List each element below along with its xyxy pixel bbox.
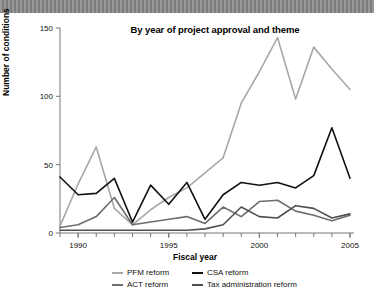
y-axis-tick-label: 150	[40, 24, 54, 33]
chart-legend: PFM reform CSA reform ACT reform Tax adm…	[112, 268, 362, 289]
legend-item-csa-reform[interactable]: CSA reform	[192, 268, 362, 277]
x-axis-tick-label: 2005	[341, 241, 359, 250]
legend-item-tax-administration-reform[interactable]: Tax administration reform	[192, 280, 362, 289]
legend-label-csa-reform: CSA reform	[207, 268, 248, 277]
y-axis-tick-label: 50	[44, 161, 53, 170]
x-axis-tick-label: 1990	[69, 241, 87, 250]
series-line-pfm-reform	[60, 38, 350, 227]
legend-label-tax-administration-reform: Tax administration reform	[207, 280, 297, 289]
line-chart-svg: 0501001501990199520002005	[0, 0, 374, 303]
x-axis-tick-label: 1995	[160, 241, 178, 250]
legend-label-act-reform: ACT reform	[127, 280, 168, 289]
y-axis-tick-label: 0	[49, 229, 54, 238]
legend-item-act-reform[interactable]: ACT reform	[112, 280, 192, 289]
y-axis-tick-label: 100	[40, 92, 54, 101]
legend-swatch-tax-administration-reform	[192, 284, 203, 286]
legend-swatch-csa-reform	[192, 272, 203, 274]
legend-label-pfm-reform: PFM reform	[127, 268, 169, 277]
legend-item-pfm-reform[interactable]: PFM reform	[112, 268, 192, 277]
x-axis-tick-label: 2000	[250, 241, 268, 250]
legend-swatch-pfm-reform	[112, 272, 123, 274]
legend-swatch-act-reform	[112, 284, 123, 286]
series-line-act-reform	[60, 197, 350, 227]
chart-plot-area: 0501001501990199520002005	[0, 0, 374, 303]
